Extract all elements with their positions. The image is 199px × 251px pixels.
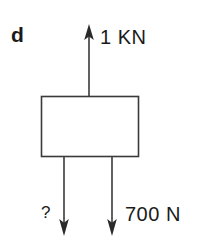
force-arrow-down-right bbox=[107, 157, 117, 236]
part-label: d bbox=[11, 24, 24, 45]
force-arrow-up-top bbox=[84, 24, 94, 96]
block-rectangle bbox=[42, 97, 139, 157]
free-body-diagram: d 1 KN ? 700 N bbox=[0, 0, 199, 251]
force-label-bottom-right: 700 N bbox=[125, 204, 181, 224]
force-arrow-down-left bbox=[59, 157, 69, 236]
force-label-top: 1 KN bbox=[100, 27, 146, 47]
force-label-unknown: ? bbox=[41, 204, 50, 221]
